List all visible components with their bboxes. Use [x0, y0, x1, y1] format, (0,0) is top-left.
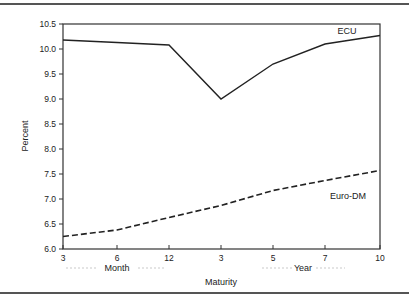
x-group-label-year: Year: [294, 263, 312, 273]
x-tick-label: 12: [164, 253, 174, 263]
y-tick-label: 10.0: [39, 44, 56, 54]
x-tick-label: 3: [219, 253, 224, 263]
y-tick-label: 10.5: [39, 19, 56, 29]
x-tick-label: 5: [271, 253, 276, 263]
y-tick-label: 7.0: [44, 194, 56, 204]
series-label-ecu: ECU: [337, 26, 356, 36]
x-tick-label: 10: [375, 253, 385, 263]
y-tick-label: 6.5: [44, 219, 56, 229]
series-label-euro-dm: Euro-DM: [330, 191, 366, 201]
series-lines: ECUEuro-DM: [63, 26, 380, 237]
y-tick-label: 8.0: [44, 144, 56, 154]
x-tick-label: 3: [61, 253, 66, 263]
x-group-label-month: Month: [104, 263, 129, 273]
series-euro-dm: [63, 171, 380, 237]
y-axis: 10.510.09.59.08.58.07.57.06.56.0: [39, 19, 63, 254]
x-axis-title: Maturity: [205, 277, 238, 287]
series-ecu: [63, 36, 380, 100]
y-tick-label: 7.5: [44, 169, 56, 179]
y-tick-label: 9.0: [44, 94, 56, 104]
plot-frame: [63, 24, 380, 249]
y-axis-title: Percent: [20, 120, 30, 152]
yield-curve-chart: 10.510.09.59.08.58.07.57.06.56.0 3612357…: [0, 0, 409, 299]
y-tick-label: 8.5: [44, 119, 56, 129]
plot-border: [63, 24, 380, 249]
x-tick-label: 6: [115, 253, 120, 263]
y-tick-label: 9.5: [44, 69, 56, 79]
x-tick-label: 7: [323, 253, 328, 263]
y-tick-label: 6.0: [44, 244, 56, 254]
